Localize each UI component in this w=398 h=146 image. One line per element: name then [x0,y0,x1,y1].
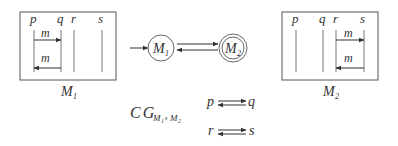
lane-label-q: q [319,11,326,26]
msc-m1-caption-sub: 1 [73,92,77,101]
msc-m2-caption: M [322,84,336,99]
cg-node-q: q [248,94,255,109]
state-m2-label-sub: 2 [237,49,241,58]
state-m1-label-sub: 1 [165,49,169,58]
cg-sub-2: 2 [178,118,181,124]
lane-label-p: p [291,11,299,26]
lane-label-r: r [71,11,77,26]
lane-label-q: q [57,11,64,26]
lane-label-r: r [333,11,339,26]
cg-node-s: s [249,123,255,138]
lane-label-s: s [360,11,365,26]
lane-label-s: s [98,11,103,26]
state-m1-label: M [152,41,166,56]
communication-graph: CG M 1 ∘ M 2 p q r s [130,94,255,138]
cg-sub-op: ∘ [164,114,168,123]
msc-m2-caption-sub: 2 [335,92,339,101]
diagram-canvas: p q r s m m M 1 M 1 M 2 p q r s [0,0,398,146]
cg-sub-m2: M [169,113,178,123]
msc-m1: p q r s m m M 1 [20,11,116,101]
cg-node-r: r [208,123,214,138]
message-label: m [41,26,50,40]
message-label: m [344,26,353,40]
lane-label-p: p [29,11,37,26]
state-m2-label: M [224,41,238,56]
automaton: M 1 M 2 [130,34,247,62]
cg-sub-m1: M [152,113,161,123]
msc-m2: p q r s m m M 2 [282,11,378,101]
message-label: m [344,51,353,65]
cg-node-p: p [206,94,214,109]
message-label: m [41,51,50,65]
msc-m1-caption: M [60,84,74,99]
